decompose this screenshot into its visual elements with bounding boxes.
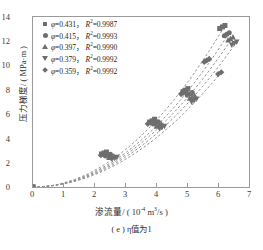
x-axis-label-pre: 渗流量/ ( 10 <box>95 207 140 217</box>
x-tick-label: 6 <box>208 190 228 198</box>
y-tick-label: 8 <box>0 86 10 94</box>
x-tick-label: 0 <box>22 190 42 198</box>
data-point <box>227 30 232 35</box>
x-tick-label: 4 <box>146 190 166 198</box>
x-axis-label: 渗流量/ ( 10-4 m3/s ) <box>0 205 263 217</box>
y-tick-label: 2 <box>0 159 10 167</box>
legend-triangle-down-icon <box>40 56 50 61</box>
legend-triangle-up-icon <box>40 44 50 49</box>
legend-diamond-icon <box>40 68 50 72</box>
x-axis-label-mid: m <box>145 207 154 217</box>
x-axis-label-post: /s ) <box>157 207 168 217</box>
legend-item: φ=0.431， R2=0.9987 <box>40 18 148 30</box>
y-tick-label: 6 <box>0 110 10 118</box>
y-tick-label: 0 <box>0 183 10 191</box>
legend-item-label: φ=0.379， R2=0.9992 <box>51 53 117 64</box>
legend-item: φ=0.379， R2=0.9992 <box>40 53 148 65</box>
x-tick-mark <box>94 183 95 188</box>
x-tick-mark <box>125 183 126 188</box>
legend-item-label: φ=0.431， R2=0.9987 <box>51 18 117 29</box>
legend-item-label: φ=0.415， R2=0.9993 <box>51 30 117 41</box>
legend: φ=0.431， R2=0.9987 φ=0.415， R2=0.9993 φ=… <box>40 18 148 76</box>
x-tick-label: 7 <box>239 190 259 198</box>
x-tick-mark <box>187 183 188 188</box>
trend-line <box>33 72 221 187</box>
y-tick-label: 12 <box>0 37 10 45</box>
legend-circle-icon <box>40 33 50 38</box>
data-point <box>33 184 36 187</box>
x-tick-label: 5 <box>177 190 197 198</box>
data-point <box>222 23 227 28</box>
y-tick-label: 10 <box>0 61 10 69</box>
figure-container: 14 12 10 8 6 4 2 0 压力梯度/ ( MPa·m ) φ=0.4… <box>0 0 263 250</box>
figure-caption: ( e ) η值为1 <box>0 222 263 234</box>
y-axis-label: 压力梯度/ ( MPa·m ) <box>16 19 28 149</box>
legend-square-icon <box>40 22 50 27</box>
legend-item: φ=0.415， R2=0.9993 <box>40 30 148 42</box>
legend-item-label: φ=0.397， R2=0.9990 <box>51 41 117 52</box>
x-tick-label: 1 <box>53 190 73 198</box>
x-tick-label: 3 <box>115 190 135 198</box>
x-tick-mark <box>218 183 219 188</box>
x-tick-label: 2 <box>84 190 104 198</box>
legend-item: φ=0.359， R2=0.9992 <box>40 64 148 76</box>
legend-item-label: φ=0.359， R2=0.9992 <box>51 65 117 76</box>
y-tick-label: 4 <box>0 135 10 143</box>
y-tick-label: 14 <box>0 13 10 21</box>
x-tick-mark <box>63 183 64 188</box>
x-tick-mark <box>156 183 157 188</box>
legend-item: φ=0.397， R2=0.9990 <box>40 41 148 53</box>
